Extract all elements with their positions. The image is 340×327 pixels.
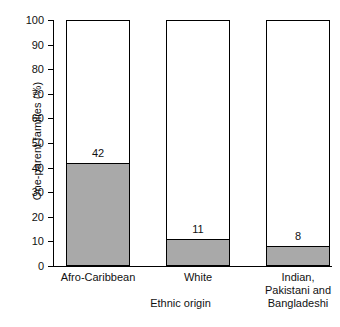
y-axis-tick-label: 80: [4, 64, 44, 75]
y-axis-tick-label: 50: [4, 138, 44, 149]
y-axis-tick: [48, 266, 53, 267]
bar-group[interactable]: 11: [166, 20, 230, 266]
bar-value-segment[interactable]: [166, 239, 230, 266]
y-axis-tick-label: 20: [4, 212, 44, 223]
bar-total-outline: [266, 20, 330, 266]
x-axis-category-label-line: Indian,: [238, 271, 340, 284]
x-axis-line: [53, 266, 332, 267]
y-axis-tick-label: 10: [4, 236, 44, 247]
bar-value-segment[interactable]: [266, 246, 330, 266]
bar-group[interactable]: 42: [66, 20, 130, 266]
y-axis-tick-label: 30: [4, 187, 44, 198]
y-axis-tick-label: 100: [4, 15, 44, 26]
bar-chart: One-parent families (%) 0102030405060708…: [0, 0, 340, 327]
y-axis-tick-label: 90: [4, 40, 44, 51]
bar-group[interactable]: 8: [266, 20, 330, 266]
y-axis-tick-label: 40: [4, 163, 44, 174]
y-axis-tick-label: 70: [4, 89, 44, 100]
x-axis-title: Ethnic origin: [53, 297, 308, 309]
bar-value-label: 42: [66, 148, 130, 159]
bar-value-segment[interactable]: [66, 163, 130, 266]
bar-value-label: 11: [166, 224, 230, 235]
plot-area: 42118: [53, 20, 331, 266]
y-axis-tick-label: 60: [4, 113, 44, 124]
x-axis-category-label-line: Pakistani and: [238, 284, 340, 297]
bar-value-label: 8: [266, 231, 330, 242]
